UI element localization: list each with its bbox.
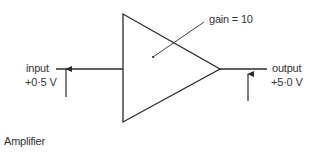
caption: Amplifier <box>4 135 45 148</box>
gain-leader-line <box>153 22 204 57</box>
output-label: output <box>272 62 301 75</box>
input-label: input <box>26 62 49 75</box>
gain-label: gain = 10 <box>209 13 253 26</box>
amplifier-triangle <box>123 14 220 122</box>
output-value: +5·0 V <box>271 76 303 89</box>
input-value: +0·5 V <box>25 76 57 89</box>
